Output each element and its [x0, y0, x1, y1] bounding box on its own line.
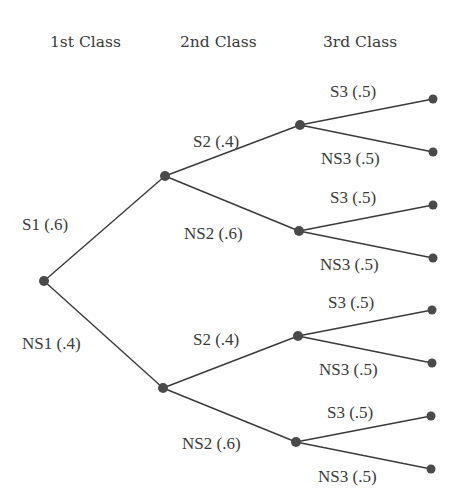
probability-tree-diagram: 1st Class 2nd Class 3rd Class S1 (.6)NS1…	[0, 0, 460, 501]
leaf-node-dot-icon	[427, 465, 436, 474]
branch-S1S2-L1	[300, 99, 433, 125]
leaf-node-dot-icon	[429, 254, 438, 263]
branch-node-dot-icon	[39, 276, 49, 286]
branch-S1NS2-L3	[299, 205, 433, 231]
leaf-node-dot-icon	[427, 412, 436, 421]
branch-NS1NS2-L8	[296, 442, 431, 469]
branch-node-dot-icon	[160, 171, 170, 181]
leaf-node-dot-icon	[429, 148, 438, 157]
branch-label: NS3 (.5)	[318, 467, 377, 486]
header-3rd-class: 3rd Class	[323, 33, 397, 51]
branch-label: NS3 (.5)	[321, 149, 380, 168]
branch-NS1S2-L5	[298, 310, 432, 336]
branch-label: S3 (.5)	[330, 82, 376, 101]
header-2nd-class: 2nd Class	[180, 33, 257, 51]
leaf-node-dot-icon	[429, 201, 438, 210]
branch-label: S2 (.4)	[193, 330, 239, 349]
branch-label: S3 (.5)	[328, 293, 374, 312]
leaf-node-dot-icon	[428, 359, 437, 368]
branch-node-dot-icon	[294, 226, 304, 236]
branch-S1-S1NS2	[165, 176, 299, 231]
branch-label: S3 (.5)	[327, 403, 373, 422]
branch-label: S1 (.6)	[22, 215, 68, 234]
branch-node-dot-icon	[293, 331, 303, 341]
branch-node-dot-icon	[291, 437, 301, 447]
branch-S1S2-L2	[300, 125, 433, 152]
branch-label: NS3 (.5)	[319, 360, 378, 379]
branch-S1NS2-L4	[299, 231, 433, 258]
leaf-node-dot-icon	[429, 95, 438, 104]
branch-label: S2 (.4)	[193, 132, 239, 151]
branch-label: NS2 (.6)	[184, 224, 243, 243]
branch-label: NS1 (.4)	[22, 334, 81, 353]
branch-node-dot-icon	[158, 383, 168, 393]
branch-NS1S2-L6	[298, 336, 432, 363]
column-headers: 1st Class 2nd Class 3rd Class	[50, 33, 397, 51]
branch-node-dot-icon	[295, 120, 305, 130]
branch-label: NS3 (.5)	[320, 255, 379, 274]
leaf-node-dot-icon	[428, 306, 437, 315]
header-1st-class: 1st Class	[50, 33, 121, 51]
branch-label: NS2 (.6)	[182, 434, 241, 453]
edge-labels: S1 (.6)NS1 (.4)S2 (.4)NS2 (.6)S2 (.4)NS2…	[22, 82, 380, 486]
branch-label: S3 (.5)	[330, 188, 376, 207]
